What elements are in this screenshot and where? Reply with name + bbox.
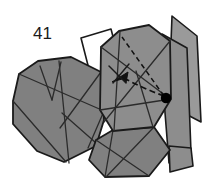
origami-illustration: 41 bbox=[0, 0, 212, 187]
center-panel-shape bbox=[100, 25, 171, 131]
pivot-point-dot bbox=[161, 93, 171, 103]
origami-diagram-figure: 41 bbox=[0, 0, 212, 187]
step-number-label: 41 bbox=[33, 24, 52, 43]
